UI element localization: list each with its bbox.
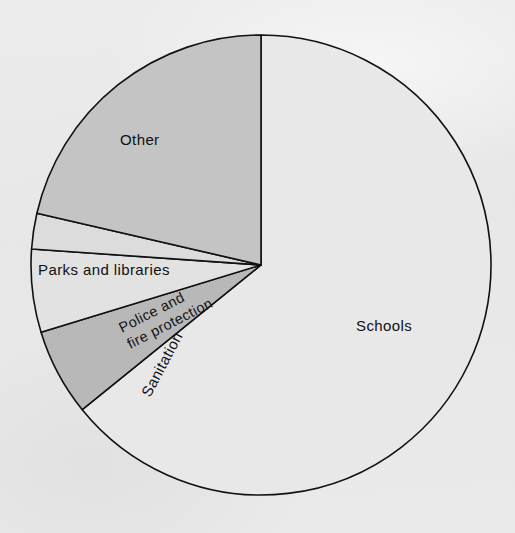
pie-label-line: Schools — [356, 317, 412, 334]
pie-label-other: Other — [120, 131, 160, 148]
pie-label-line: Other — [120, 131, 160, 148]
pie-label-schools: Schools — [356, 317, 412, 334]
pie-chart-svg: SchoolsSanitationPolice andfire protecti… — [0, 0, 515, 533]
pie-label-line: Parks and libraries — [38, 261, 170, 278]
pie-chart-figure: SchoolsSanitationPolice andfire protecti… — [0, 0, 515, 533]
pie-label-parks-and-libraries: Parks and libraries — [38, 261, 170, 278]
